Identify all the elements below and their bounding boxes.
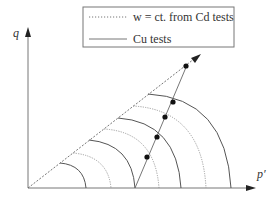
legend-label-solid: Cu tests <box>133 32 172 46</box>
q-axis-arrow-icon <box>25 27 31 37</box>
arc-dotted-2 <box>104 129 159 188</box>
data-point <box>162 114 167 119</box>
p-axis-label: p′ <box>256 167 266 181</box>
q-axis-label: q <box>13 26 19 40</box>
diagram: w = ct. from Cd tests Cu tests q p′ <box>0 0 280 198</box>
failure-line <box>28 59 194 188</box>
arc-solid-1 <box>60 163 86 188</box>
data-point <box>170 99 175 104</box>
arc-dotted-3 <box>133 106 206 188</box>
legend-label-dotted: w = ct. from Cd tests <box>133 10 234 24</box>
p-axis-arrow-icon <box>246 185 256 191</box>
data-point <box>154 134 159 139</box>
data-point <box>183 63 188 68</box>
arc-solid-4 <box>148 94 231 188</box>
data-point <box>144 154 149 159</box>
arc-solid-2 <box>89 140 135 188</box>
stress-path-line <box>135 65 187 188</box>
failure-line-arrow-icon <box>191 54 201 63</box>
